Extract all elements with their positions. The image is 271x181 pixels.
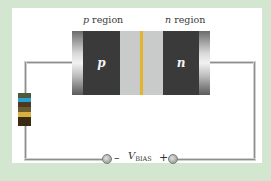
junction-line bbox=[140, 31, 143, 95]
negative-terminal bbox=[102, 154, 112, 164]
wire-left-lower bbox=[24, 125, 27, 161]
n-region-label: n region bbox=[165, 14, 205, 25]
p-region-label: p region bbox=[83, 14, 123, 25]
n-region-letter: n bbox=[177, 56, 186, 70]
positive-terminal bbox=[168, 154, 178, 164]
vbias-label: VBIAS bbox=[128, 150, 152, 163]
wire-left-top bbox=[24, 61, 74, 64]
n-region-label-text: region bbox=[171, 14, 205, 25]
pn-junction-diode: p n bbox=[72, 31, 210, 95]
wire-bottom-left bbox=[24, 158, 104, 161]
right-metal-contact bbox=[199, 31, 210, 95]
wire-right-vertical bbox=[253, 61, 256, 161]
plus-sign: + bbox=[159, 151, 168, 164]
resistor-band bbox=[18, 121, 31, 126]
wire-bottom-right bbox=[176, 158, 256, 161]
minus-sign: – bbox=[114, 151, 120, 164]
resistor bbox=[18, 93, 31, 126]
p-region-letter: p bbox=[97, 56, 105, 70]
n-region: n bbox=[163, 31, 199, 95]
p-region-label-text: region bbox=[89, 14, 123, 25]
wire-left-upper bbox=[24, 61, 27, 94]
p-region: p bbox=[83, 31, 120, 95]
left-metal-contact bbox=[72, 31, 83, 95]
wire-right-top bbox=[208, 61, 256, 64]
vbias-subscript: BIAS bbox=[135, 155, 152, 163]
